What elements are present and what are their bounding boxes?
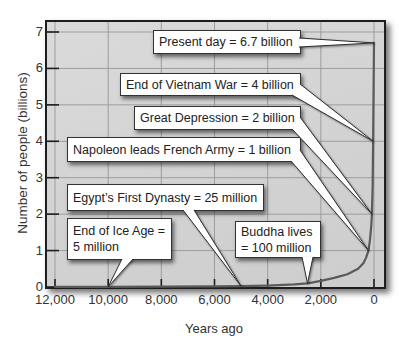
y-tick-label: 3 <box>36 170 43 186</box>
y-axis-title: Number of people (billions) <box>15 72 30 233</box>
callout-text-line-1: Buddha lives <box>241 224 315 240</box>
y-tick-label: 5 <box>36 97 43 113</box>
y-tick-label: 2 <box>36 206 43 222</box>
callout-napoleon: Napoleon leads French Army = 1 billion <box>67 137 301 162</box>
callout-text-line-1: End of Ice Age = <box>73 223 166 239</box>
x-tick-label: 0 <box>370 292 377 308</box>
callout-egypt-first-dynasty: Egypt’s First Dynasty = 25 million <box>67 184 264 211</box>
callout-end-of-ice-age: End of Ice Age = 5 million <box>67 218 172 260</box>
x-tick-label: 6,000 <box>198 292 231 308</box>
x-tick-label: 8,000 <box>145 292 178 308</box>
callout-vietnam-war: End of Vietnam War = 4 billion <box>120 73 301 96</box>
callout-text: Great Depression = 2 billion <box>140 110 295 126</box>
x-tick-label: 2,000 <box>305 292 338 308</box>
y-tick-label: 1 <box>36 243 43 259</box>
callout-text: Napoleon leads French Army = 1 billion <box>73 142 295 158</box>
y-tick-label: 0 <box>36 279 43 295</box>
callout-great-depression: Great Depression = 2 billion <box>134 106 301 130</box>
y-tick-label: 7 <box>36 24 43 40</box>
callout-text: Egypt’s First Dynasty = 25 million <box>73 190 258 206</box>
population-chart: Number of people (billions) Years ago 12… <box>0 0 399 348</box>
y-tick-label: 4 <box>36 133 43 149</box>
callout-text: End of Vietnam War = 4 billion <box>126 77 295 93</box>
x-axis-title: Years ago <box>185 321 243 336</box>
x-tick-label: 4,000 <box>251 292 284 308</box>
callout-text: Present day = 6.7 billion <box>159 34 295 50</box>
callout-text-line-2: = 100 million <box>241 240 315 256</box>
callout-text-line-2: 5 million <box>73 239 166 255</box>
callout-present-day: Present day = 6.7 billion <box>153 30 301 54</box>
y-tick-label: 6 <box>36 60 43 76</box>
callout-buddha: Buddha lives = 100 million <box>235 221 321 258</box>
x-tick-label: 10,000 <box>88 292 128 308</box>
